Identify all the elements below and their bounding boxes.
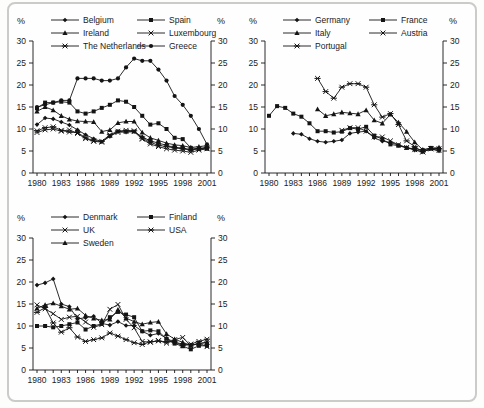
legend: DenmarkFinlandUKUSASweden: [51, 212, 197, 248]
series-point-marker-icon: [116, 302, 121, 307]
y-tick-label-right: 25: [218, 58, 228, 68]
legend: GermanyFranceItalyAustriaPortugal: [283, 15, 428, 51]
series-point-marker-icon: [35, 283, 40, 288]
x-tick-label: 1995: [149, 375, 168, 385]
legend-item-portugal: Portugal: [283, 41, 347, 51]
series-point-marker-icon: [291, 131, 296, 136]
series-point-marker-icon: [43, 324, 47, 328]
legend-label: The Netherlands: [83, 41, 146, 51]
x-tick-label: 2001: [198, 178, 217, 188]
series-point-marker-icon: [267, 114, 271, 118]
legend-label: UK: [83, 225, 95, 235]
y-tick-label-left: 25: [249, 58, 259, 68]
y-tick-label-right: 30: [450, 36, 460, 46]
x-tick-label: 1995: [149, 178, 168, 188]
series-line: [37, 100, 207, 148]
y-tick-label-right: 15: [450, 102, 460, 112]
y-tick-label-left: 5: [21, 146, 26, 156]
series-point-marker-icon: [84, 328, 88, 332]
series-point-marker-icon: [307, 136, 312, 141]
series-point-marker-icon: [164, 79, 168, 83]
series-point-marker-icon: [140, 329, 144, 333]
series-point-marker-icon: [107, 307, 112, 312]
x-tick-label: 1998: [173, 178, 192, 188]
series-point-marker-icon: [91, 337, 97, 342]
x-tick-label: 2001: [430, 178, 449, 188]
y-tick-label-left: 20: [17, 277, 27, 287]
page: 0055101015152020252530301980198319861989…: [0, 0, 484, 408]
series-point-marker-icon: [404, 138, 410, 143]
series-point-marker-icon: [50, 321, 56, 326]
series-point-marker-icon: [148, 328, 152, 332]
series-point-marker-icon: [388, 142, 392, 146]
series-point-marker-icon: [291, 112, 295, 116]
legend-marker-icon: [63, 215, 68, 220]
series-point-marker-icon: [363, 85, 369, 90]
y-tick-label-left: 25: [17, 58, 27, 68]
percent-label-right: %: [217, 213, 225, 223]
series-point-marker-icon: [58, 330, 64, 335]
y-tick-label-right: 30: [218, 233, 228, 243]
legend-marker-icon: [381, 18, 385, 22]
series-point-marker-icon: [115, 334, 121, 339]
series-point-marker-icon: [51, 117, 56, 122]
series-point-marker-icon: [59, 120, 64, 125]
legend-marker-icon: [62, 44, 68, 49]
legend-item-finland: Finland: [137, 212, 197, 222]
series-point-marker-icon: [314, 76, 320, 81]
series-point-marker-icon: [331, 139, 336, 144]
legend-label: Portugal: [315, 41, 347, 51]
legend-marker-icon: [63, 18, 68, 23]
series-point-marker-icon: [131, 340, 137, 345]
series-point-marker-icon: [323, 89, 329, 94]
series-point-marker-icon: [299, 115, 303, 119]
series-point-marker-icon: [58, 128, 64, 133]
x-tick-label: 2001: [198, 375, 217, 385]
series-point-marker-icon: [132, 57, 136, 61]
series-point-marker-icon: [181, 103, 185, 107]
series-point-marker-icon: [75, 109, 79, 113]
line-chart-top-left: 0055101015152020252530301980198319861989…: [11, 8, 243, 204]
x-tick-label: 1983: [284, 178, 303, 188]
series-point-marker-icon: [339, 85, 345, 90]
y-tick-label-right: 5: [218, 343, 223, 353]
series-point-marker-icon: [355, 81, 361, 86]
series-point-marker-icon: [51, 101, 55, 105]
series-point-marker-icon: [148, 123, 152, 127]
series-italy: [315, 107, 442, 152]
series-point-marker-icon: [156, 319, 161, 324]
series-point-marker-icon: [67, 117, 72, 122]
series-point-marker-icon: [315, 139, 320, 144]
series-point-marker-icon: [43, 103, 47, 107]
series-point-marker-icon: [147, 339, 153, 344]
series-point-marker-icon: [307, 121, 311, 125]
series-point-marker-icon: [83, 76, 87, 80]
x-tick-label: 1998: [173, 375, 192, 385]
x-tick-label: 1980: [260, 178, 279, 188]
series-point-marker-icon: [116, 76, 120, 80]
legend-item-luxembourg: Luxembourg: [137, 28, 217, 38]
series-point-marker-icon: [371, 102, 377, 107]
axes: 0055101015152020252530301980198319861989…: [17, 213, 228, 385]
series-point-marker-icon: [82, 339, 88, 344]
legend-label: Spain: [169, 15, 191, 25]
x-tick-label: 1992: [125, 178, 144, 188]
series-point-marker-icon: [139, 342, 145, 347]
series-austria: [339, 125, 441, 154]
series-point-marker-icon: [283, 106, 287, 110]
legend-label: Luxembourg: [169, 28, 217, 38]
series-point-marker-icon: [51, 311, 56, 316]
series-point-marker-icon: [100, 79, 104, 83]
series-point-marker-icon: [155, 339, 161, 344]
x-tick-label: 1989: [332, 178, 351, 188]
series-point-marker-icon: [347, 81, 353, 86]
x-tick-label: 1986: [76, 178, 95, 188]
y-tick-label-left: 0: [21, 168, 26, 178]
series-point-marker-icon: [67, 98, 71, 102]
x-tick-label: 1983: [52, 178, 71, 188]
series-point-marker-icon: [51, 325, 55, 329]
legend-item-austria: Austria: [369, 28, 428, 38]
series-point-marker-icon: [59, 324, 63, 328]
series-point-marker-icon: [59, 113, 64, 118]
legend-item-france: France: [369, 15, 428, 25]
